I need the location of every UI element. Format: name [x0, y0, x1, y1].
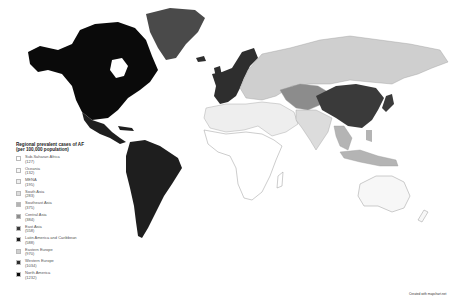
legend-value: (375): [25, 205, 34, 210]
region-sub-saharan-africa[interactable]: [204, 130, 282, 200]
legend-swatch: [16, 214, 21, 219]
indonesia: [340, 150, 398, 166]
legend-value: (132): [25, 170, 34, 175]
legend-item-southeast-asia: Southeast Asia(375): [16, 201, 126, 210]
legend-value: (970): [25, 251, 34, 256]
map-legend: Regional prevalent cases of AF (per 100,…: [16, 142, 126, 280]
legend-swatch: [16, 179, 21, 184]
legend-value: (127): [25, 159, 34, 164]
legend-swatch: [16, 168, 21, 173]
legend-swatch: [16, 156, 21, 161]
region-mena[interactable]: [204, 102, 298, 136]
legend-item-oceania: Oceania(132): [16, 167, 126, 176]
region-southeast-asia[interactable]: [334, 126, 352, 150]
legend-value: (558): [25, 228, 34, 233]
legend-item-mena: MENA(195): [16, 178, 126, 187]
iceland: [196, 56, 206, 62]
legend-item-western-europe: Western Europe(1034): [16, 259, 126, 268]
philippines: [366, 130, 372, 142]
legend-swatch: [16, 260, 21, 265]
legend-item-sub-saharan-africa: Sub-Saharan Africa(127): [16, 155, 126, 164]
legend-item-eastern-europe: Eastern Europe(970): [16, 248, 126, 257]
legend-item-south-asia: South Asia(283): [16, 190, 126, 199]
legend-value: (384): [25, 217, 34, 222]
region-greenland[interactable]: [146, 8, 205, 60]
credit-text: Created with mapchart.net: [409, 292, 446, 296]
legend-subtitle: (per 100,000 population): [16, 147, 126, 152]
caribbean: [118, 126, 134, 131]
legend-swatch: [16, 249, 21, 254]
legend-swatch: [16, 226, 21, 231]
legend-swatch: [16, 202, 21, 207]
legend-swatch: [16, 191, 21, 196]
legend-item-east-asia: East Asia(558): [16, 225, 126, 234]
region-south-america[interactable]: [126, 140, 182, 238]
japan: [382, 94, 394, 112]
legend-item-central-asia: Central Asia(384): [16, 213, 126, 222]
legend-value: (1034): [25, 263, 37, 268]
legend-value: (588): [25, 240, 34, 245]
new-zealand: [418, 210, 428, 222]
region-north-america[interactable]: [28, 22, 158, 120]
legend-item-latin-america: Latin America and Caribbean(588): [16, 236, 126, 245]
legend-swatch: [16, 237, 21, 242]
region-oceania[interactable]: [358, 176, 410, 212]
region-south-asia[interactable]: [296, 110, 332, 150]
madagascar: [277, 172, 283, 188]
legend-item-north-america: North America(1232): [16, 271, 126, 280]
legend-value: (283): [25, 193, 34, 198]
legend-swatch: [16, 272, 21, 277]
legend-value: (1232): [25, 275, 37, 280]
legend-value: (195): [25, 182, 34, 187]
